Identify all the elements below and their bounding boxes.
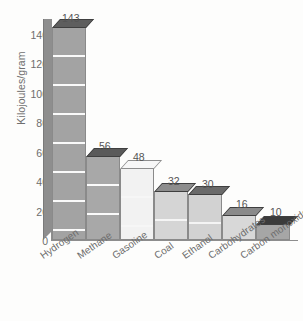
plot-area [52, 28, 290, 240]
bar-front-face [154, 192, 188, 240]
value-label-ethanol: 30 [202, 179, 214, 190]
bar-side-face [43, 19, 52, 240]
value-label-coal: 32 [168, 176, 180, 187]
value-label-carbohydrates: 16 [236, 199, 248, 210]
bar-chart: Kilojoules/gram 140 120 100 80 60 40 20 … [0, 0, 303, 321]
bar-gasoline [120, 169, 154, 240]
value-label-gasoline: 48 [133, 152, 145, 163]
bar-front-face [86, 157, 120, 240]
bar-front-face [52, 28, 86, 240]
value-label-hydrogen: 143 [62, 13, 80, 24]
bar-coal [154, 192, 188, 240]
bar-methane [86, 157, 120, 240]
value-label-carbon-monoxide: 10 [270, 207, 282, 218]
value-label-methane: 56 [99, 141, 111, 152]
x-label-coal: Coal [152, 240, 175, 261]
bar-front-face [120, 169, 154, 240]
bar-hydrogen [52, 28, 86, 240]
